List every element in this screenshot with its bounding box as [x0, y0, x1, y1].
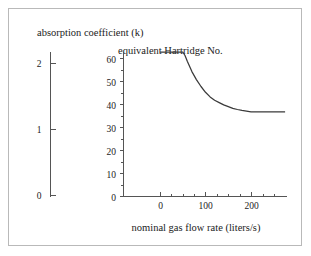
x-axis-tick-100: 100 [198, 201, 213, 211]
y-axis-tick-20: 20 [107, 147, 117, 157]
x-axis-tick-200: 200 [244, 201, 259, 211]
x-axis: 0 100 200 [124, 192, 288, 211]
page-title: absorption coefficient (k) [37, 27, 144, 39]
left-axis-tick-2: 2 [37, 59, 42, 69]
left-axis-tick-0: 0 [37, 191, 42, 201]
left-axis: 2 1 0 [37, 52, 56, 201]
figure-container: absorption coefficient (k) equivalent Ha… [0, 0, 311, 256]
y-axis-tick-60: 60 [107, 55, 117, 65]
y-axis-tick-50: 50 [107, 78, 117, 88]
y-axis-tick-30: 30 [107, 124, 117, 134]
x-axis-tick-0: 0 [158, 201, 163, 211]
y-axis-tick-40: 40 [107, 101, 117, 111]
chart-plot: absorption coefficient (k) equivalent Ha… [0, 0, 311, 256]
y-axis: 60 50 40 30 20 10 0 [107, 52, 124, 203]
y-axis-tick-10: 10 [107, 170, 117, 180]
left-axis-tick-1: 1 [37, 125, 42, 135]
data-curve [160, 52, 285, 112]
y-axis-tick-0: 0 [111, 193, 116, 203]
x-axis-label: nominal gas flow rate (liters/s) [132, 222, 261, 234]
secondary-title: equivalent Hartridge No. [118, 45, 223, 56]
